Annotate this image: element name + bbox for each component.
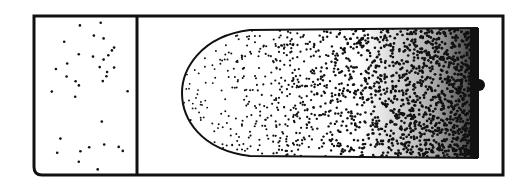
diagram: [0, 0, 526, 190]
blob-protrusion: [473, 79, 485, 91]
right-blob: [181, 27, 485, 160]
left-compartment-particles: [51, 22, 129, 171]
blob-dark-edge: [470, 28, 479, 158]
